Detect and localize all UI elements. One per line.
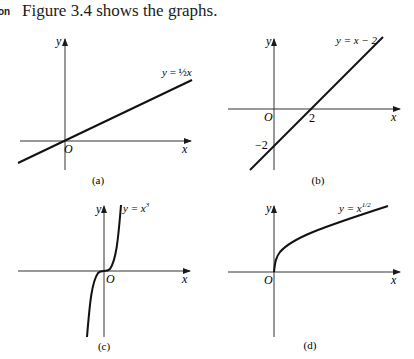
graph-line xyxy=(18,80,192,163)
x-axis-label: x xyxy=(390,273,397,287)
y-axis-label: y xyxy=(265,201,272,215)
equation-label: y = ½x xyxy=(161,66,192,78)
x-axis-label: x xyxy=(181,272,188,286)
graph-line xyxy=(250,37,383,170)
y-axis-label: y xyxy=(95,202,102,216)
y-axis-label: y xyxy=(265,34,272,48)
x-axis-label: x xyxy=(390,110,397,124)
panel-a: y x O y = ½x (a) xyxy=(18,34,192,187)
equation-label: y = x3 xyxy=(122,201,150,214)
panel-caption: (d) xyxy=(304,339,317,352)
panel-caption: (b) xyxy=(312,174,325,187)
panel-caption: (c) xyxy=(98,340,111,353)
panel-d: y x O y = x1/2 (d) xyxy=(228,201,400,352)
graph-curve xyxy=(274,206,388,272)
origin-label: O xyxy=(264,273,273,287)
origin-label: O xyxy=(264,110,273,124)
panel-c: y x O y = x3 (c) xyxy=(18,201,190,353)
y-intercept-label: −2 xyxy=(255,138,268,152)
panel-caption: (a) xyxy=(92,174,105,187)
equation-label: y = x − 2 xyxy=(335,34,378,46)
x-intercept-label: 2 xyxy=(309,111,315,125)
equation-label: y = x1/2 xyxy=(338,201,371,214)
origin-label: O xyxy=(106,272,115,286)
x-axis-label: x xyxy=(181,142,188,156)
figure-3-4: y x O y = ½x (a) y x O 2 −2 y = x − 2 (b… xyxy=(0,0,414,359)
y-axis-label: y xyxy=(55,34,62,48)
panel-b: y x O 2 −2 y = x − 2 (b) xyxy=(228,34,400,187)
origin-label: O xyxy=(64,142,73,156)
